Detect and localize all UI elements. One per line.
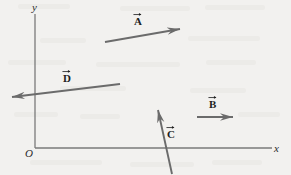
- vector-c-arrow: [158, 110, 172, 174]
- vector-overbar-arrow-icon: [208, 95, 217, 99]
- vector-a-arrow: [105, 29, 180, 42]
- vector-a-label-text: A: [134, 15, 142, 27]
- vector-overbar-arrow-icon: [166, 125, 175, 129]
- vector-a-label: A: [134, 16, 142, 27]
- y-axis-label: y: [32, 2, 37, 13]
- vector-overbar-arrow-icon: [133, 12, 142, 16]
- vector-d-arrow: [12, 84, 120, 97]
- vector-overbar-arrow-icon: [62, 69, 71, 73]
- x-axis-label: x: [274, 143, 279, 154]
- vector-d-label: D: [63, 73, 71, 84]
- origin-label: O: [25, 148, 33, 159]
- vector-c-label: C: [167, 129, 175, 140]
- vector-b-label: B: [209, 99, 216, 110]
- diagram-canvas: [0, 0, 291, 175]
- vector-b-label-text: B: [209, 98, 216, 110]
- vector-c-label-text: C: [167, 128, 175, 140]
- vector-diagram-figure: y x O A B C: [0, 0, 291, 175]
- vector-d-label-text: D: [63, 72, 71, 84]
